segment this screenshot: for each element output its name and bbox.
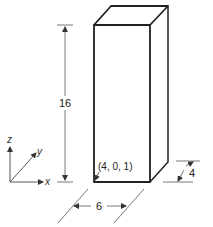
box-top-face	[94, 6, 168, 25]
y-axis-label: y	[36, 146, 43, 157]
box-front-face	[94, 25, 150, 182]
box-right-face	[150, 6, 168, 182]
box-diagram: 16 6 4 (4, 0, 1) z y x	[0, 0, 213, 227]
x-axis-label: x	[44, 176, 51, 187]
corner-coordinate-label: (4, 0, 1)	[98, 161, 132, 172]
depth-label: 4	[189, 167, 195, 179]
box	[94, 6, 168, 182]
height-label: 16	[59, 97, 71, 109]
z-axis-label: z	[6, 134, 12, 145]
corner-pointer	[95, 172, 99, 180]
y-axis	[10, 153, 36, 182]
width-label: 6	[96, 200, 102, 212]
